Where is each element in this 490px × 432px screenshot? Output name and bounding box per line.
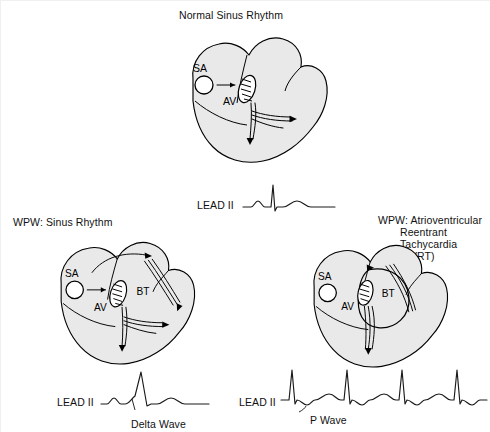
sa-node-circle	[319, 284, 336, 301]
ecg-waveform-avrt	[281, 370, 487, 405]
sa-node-label: SA	[65, 268, 79, 279]
ecg-waveform-wpw-sinus	[101, 372, 209, 406]
ecg-trace-avrt	[281, 364, 489, 414]
lead-label-wpw-sinus: LEAD II	[57, 396, 94, 408]
bt-label: BT	[137, 286, 150, 297]
heart-outline	[61, 242, 195, 364]
panel-title-normal-sinus-rhythm: Normal Sinus Rhythm	[179, 9, 283, 22]
sa-node-circle	[195, 76, 213, 94]
ecg-trace-wpw-sinus	[101, 366, 221, 414]
panel-title-avrt-line1: WPW: Atrioventricular	[378, 214, 482, 227]
p-wave-annotation: P Wave	[310, 414, 347, 426]
heart-diagram-avrt: SA AV BT	[286, 231, 466, 376]
heart-outline	[314, 245, 448, 367]
heart-diagram-wpw-sinus: SA AV BT	[29, 228, 219, 373]
p-wave-pointer	[299, 406, 306, 412]
panel-normal-sinus-rhythm: Normal Sinus Rhythm SA AV	[1, 1, 490, 221]
delta-wave-pointer	[132, 399, 135, 410]
panel-wpw-sinus-rhythm: WPW: Sinus Rhythm SA	[1, 206, 241, 432]
panel-title-wpw-sinus-rhythm: WPW: Sinus Rhythm	[13, 216, 113, 229]
bt-label: BT	[382, 288, 395, 299]
sa-node-label: SA	[193, 62, 207, 74]
heart-diagram-normal: SA AV	[151, 27, 341, 187]
av-node-label: AV	[94, 302, 107, 313]
sa-node-circle	[66, 281, 83, 298]
panel-wpw-avrt: WPW: Atrioventricular Reentrant Tachycar…	[231, 206, 490, 432]
av-node-label: AV	[223, 95, 236, 107]
wpw-arrhythmia-figure: Normal Sinus Rhythm SA AV	[0, 0, 490, 432]
delta-wave-annotation: Delta Wave	[131, 418, 186, 430]
heart-outline	[193, 38, 327, 162]
av-node-label: AV	[341, 301, 354, 312]
lead-label-avrt: LEAD II	[239, 396, 276, 408]
sa-node-label: SA	[318, 271, 332, 282]
